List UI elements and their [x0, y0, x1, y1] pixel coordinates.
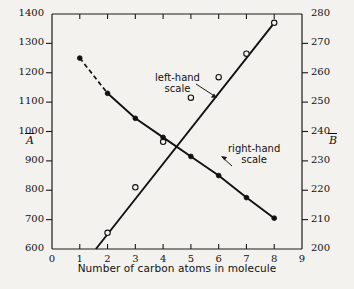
tick-label: 200 — [311, 242, 330, 253]
data-point — [133, 116, 138, 121]
data-point — [77, 56, 82, 61]
tick-label: 230 — [311, 154, 330, 165]
annotation-right-hand-scale-line2: scale — [228, 154, 280, 165]
data-point — [244, 51, 249, 56]
tick-label: 3 — [132, 253, 138, 264]
tick-label: 5 — [188, 253, 194, 264]
annotation-left-hand-scale-line2: scale — [155, 83, 200, 94]
tick-label: 260 — [311, 66, 330, 77]
tick-label: 1400 — [19, 7, 44, 18]
tick-label: 600 — [25, 242, 44, 253]
chart-background — [0, 0, 354, 289]
tick-label: 9 — [299, 253, 305, 264]
tick-label: 0 — [49, 253, 55, 264]
data-point — [188, 95, 193, 100]
tick-label: 280 — [311, 7, 330, 18]
annotation-right-hand-scale-line1: right-hand — [228, 143, 280, 154]
tick-label: 240 — [311, 125, 330, 136]
tick-label: 800 — [25, 183, 44, 194]
annotation-right-hand-scale: right-hand scale — [228, 143, 280, 165]
data-point — [188, 154, 193, 159]
tick-label: 270 — [311, 36, 330, 47]
annotation-left-hand-scale: left-hand scale — [155, 72, 200, 94]
tick-label: 220 — [311, 183, 330, 194]
data-point — [244, 195, 249, 200]
data-point — [133, 185, 138, 190]
tick-label: 1100 — [19, 95, 44, 106]
tick-label: 1300 — [19, 36, 44, 47]
data-point — [272, 216, 277, 221]
tick-label: 900 — [25, 154, 44, 165]
tick-label: 210 — [311, 213, 330, 224]
y-axis-left-title: A — [26, 134, 34, 147]
data-point — [161, 135, 166, 140]
tick-label: 8 — [271, 253, 277, 264]
data-point — [216, 74, 221, 79]
tick-label: 7 — [243, 253, 249, 264]
tick-label: 250 — [311, 95, 330, 106]
tick-label: 700 — [25, 213, 44, 224]
y-axis-right-title: B — [329, 134, 337, 147]
data-point — [272, 20, 277, 25]
annotation-left-hand-scale-line1: left-hand — [155, 72, 200, 83]
data-point — [216, 173, 221, 178]
tick-label: 1000 — [19, 125, 44, 136]
data-point — [105, 91, 110, 96]
tick-label: 4 — [160, 253, 166, 264]
tick-label: 1 — [77, 253, 83, 264]
tick-label: 2 — [104, 253, 110, 264]
tick-label: 1200 — [19, 66, 44, 77]
chart-canvas — [0, 0, 354, 289]
data-point — [105, 230, 110, 235]
tick-label: 6 — [215, 253, 221, 264]
